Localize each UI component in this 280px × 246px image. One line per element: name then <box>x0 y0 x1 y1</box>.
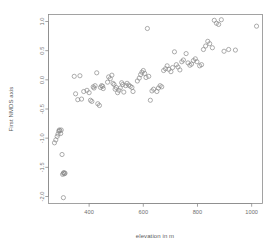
data-point <box>184 51 188 55</box>
x-tick-label: 1000 <box>245 209 258 215</box>
data-point <box>227 47 231 51</box>
figure-canvas: 4006008001000 1.00.50.0-0.5-1.0-1.5-2.0 … <box>0 0 280 246</box>
data-point <box>219 18 223 22</box>
y-tick-label: 0.0 <box>39 76 45 84</box>
data-point <box>122 90 126 94</box>
y-tick-label: -2.0 <box>39 191 45 201</box>
scatter-plot: 4006008001000 1.00.50.0-0.5-1.0-1.5-2.0 … <box>0 0 280 246</box>
y-tick-label: -0.5 <box>39 104 45 114</box>
data-point <box>144 75 148 79</box>
y-tick-label: -1.5 <box>39 162 45 172</box>
x-tick-label: 400 <box>84 209 94 215</box>
data-point <box>212 18 216 22</box>
x-tick-label: 600 <box>138 209 148 215</box>
data-point <box>148 98 152 102</box>
data-point <box>145 26 149 30</box>
data-point <box>170 65 174 69</box>
y-axis-title: First NMDS axis <box>8 87 14 132</box>
data-point <box>233 48 237 52</box>
data-point <box>210 46 214 50</box>
x-axis-title: elevation in m <box>136 233 174 239</box>
y-tick-label: -1.0 <box>39 133 45 143</box>
data-point <box>111 81 115 85</box>
data-point <box>78 74 82 78</box>
data-point <box>60 152 64 156</box>
data-point <box>131 89 135 93</box>
y-axis: 1.00.50.0-0.5-1.0-1.5-2.0 <box>39 17 48 201</box>
data-point <box>72 74 76 78</box>
data-point <box>61 196 65 200</box>
data-point <box>222 49 226 53</box>
data-point <box>95 71 99 75</box>
data-point <box>172 50 176 54</box>
data-point <box>110 73 114 77</box>
data-point <box>254 24 258 28</box>
plot-frame <box>49 15 263 204</box>
data-point <box>204 44 208 48</box>
x-tick-label: 800 <box>193 209 203 215</box>
x-axis: 4006008001000 <box>84 204 258 215</box>
data-point <box>73 92 77 96</box>
data-points-layer <box>52 18 258 200</box>
data-point <box>112 82 116 86</box>
y-tick-label: 0.5 <box>39 47 45 55</box>
y-tick-label: 1.0 <box>39 17 45 25</box>
data-point <box>147 74 151 78</box>
